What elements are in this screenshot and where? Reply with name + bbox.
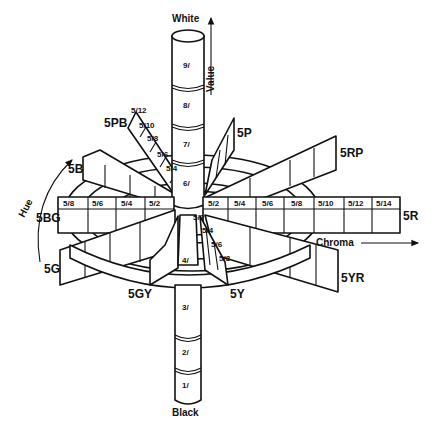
hue-5Y: 5Y xyxy=(230,287,245,301)
chroma-R-4: 5/4 xyxy=(234,199,246,208)
value-6: 6/ xyxy=(183,179,190,188)
chroma-BG-2: 5/2 xyxy=(149,199,161,208)
value-1: 1/ xyxy=(182,381,189,390)
value-9: 9/ xyxy=(183,61,190,70)
hue-5PB: 5PB xyxy=(104,116,128,130)
hue-5R: 5R xyxy=(403,209,419,223)
hue-5P: 5P xyxy=(237,126,252,140)
chroma-PB-12: 5/12 xyxy=(131,106,147,115)
chroma-R-14: 5/14 xyxy=(376,199,392,208)
hue-5YR: 5YR xyxy=(341,271,365,285)
chroma-BG-4: 5/4 xyxy=(121,199,133,208)
value-4: 4/ xyxy=(182,256,189,265)
hue-5BG: 5BG xyxy=(36,211,61,225)
value-7: 7/ xyxy=(183,140,190,149)
hue-axis-label: Hue xyxy=(16,197,35,219)
chroma-R-2: 5/2 xyxy=(208,199,220,208)
hue-5GY: 5GY xyxy=(128,287,152,301)
hue-5RP: 5RP xyxy=(340,146,363,160)
chroma-R-8: 5/8 xyxy=(291,199,303,208)
munsell-solid-svg: White Value Black Chroma Hue 9/ 8/ 7/ 6/… xyxy=(0,0,434,429)
value-3: 3/ xyxy=(182,303,189,312)
chroma-PB-4: 5/4 xyxy=(166,164,178,173)
value-2: 2/ xyxy=(182,348,189,357)
chroma-Y-4: 5/4 xyxy=(202,226,214,235)
chroma-PB-8: 5/8 xyxy=(147,134,159,143)
chroma-R-12: 5/12 xyxy=(348,199,364,208)
value-8: 8/ xyxy=(183,101,190,110)
chroma-BG-8: 5/8 xyxy=(63,199,75,208)
chroma-R-10: 5/10 xyxy=(318,199,334,208)
munsell-diagram: White Value Black Chroma Hue 9/ 8/ 7/ 6/… xyxy=(0,0,434,429)
chroma-PB-6: 5/6 xyxy=(157,150,169,159)
plane-5P xyxy=(205,118,234,195)
chroma-BG-6: 5/6 xyxy=(92,199,104,208)
chroma-Y-6: 5/6 xyxy=(211,240,223,249)
white-label: White xyxy=(172,13,200,24)
chroma-R-6: 5/6 xyxy=(262,199,274,208)
chroma-Y-2: 5/2 xyxy=(193,213,205,222)
value-axis-label: Value xyxy=(205,65,216,92)
black-label: Black xyxy=(172,407,199,418)
chroma-Y-8: 5/8 xyxy=(219,254,231,263)
hue-5G: 5G xyxy=(44,262,60,276)
chroma-PB-10: 5/10 xyxy=(139,121,155,130)
hue-5B: 5B xyxy=(68,162,84,176)
chroma-axis-label: Chroma xyxy=(316,237,354,248)
